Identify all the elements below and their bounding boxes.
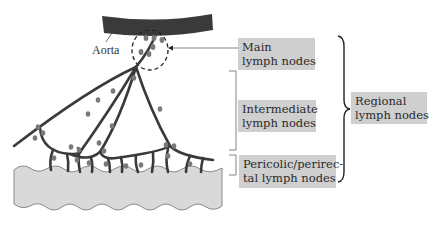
aorta-label: Aorta [92,43,119,58]
pericolic-label-line2: tal lymph nodes [243,171,332,185]
main-lymph-nodes-label: Main lymph nodes [238,38,315,70]
regional-lymph-nodes-label: Regional lymph nodes [351,92,427,124]
pericolic-bracket [229,155,236,175]
main-label-line1: Main [242,40,311,54]
intermediate-label-line2: lymph nodes [242,116,312,130]
pericolic-label-line1: Pericolic/perirec- [243,157,332,171]
pericolic-lymph-nodes-label: Pericolic/perirec- tal lymph nodes [239,155,336,188]
main-label-line2: lymph nodes [242,54,311,68]
intermediate-bracket [229,71,236,150]
arrowhead-icon [168,46,173,51]
regional-label-line1: Regional [355,94,423,108]
colon [14,166,222,210]
intermediate-label-line1: Intermediate [242,102,312,116]
intermediate-lymph-nodes-label: Intermediate lymph nodes [238,100,316,132]
regional-label-line2: lymph nodes [355,108,423,122]
